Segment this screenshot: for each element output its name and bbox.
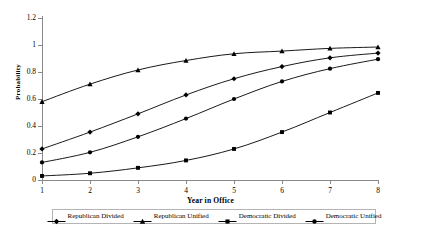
x-tick-label: 7 — [318, 186, 342, 195]
x-axis-title: Year in Office — [42, 196, 379, 205]
data-point — [88, 171, 92, 175]
data-point — [135, 111, 140, 116]
triangle-marker-icon — [133, 212, 152, 221]
legend-label: Democratic Divided — [239, 212, 296, 221]
x-tick-label: 3 — [126, 186, 150, 195]
legend-item-republican-unified[interactable]: Republican Unified — [133, 212, 209, 221]
y-axis-title: Probability — [14, 52, 22, 112]
data-point — [376, 57, 380, 61]
series-line — [42, 47, 378, 102]
diamond-marker-icon — [47, 212, 66, 221]
data-point — [376, 91, 380, 95]
data-point — [279, 48, 284, 53]
y-tick-mark — [38, 99, 43, 100]
series-line — [42, 93, 378, 176]
data-point — [327, 46, 332, 51]
series-democratic-divided — [40, 91, 380, 178]
x-tick-mark — [282, 180, 283, 184]
legend-item-democratic-divided[interactable]: Democratic Divided — [218, 212, 296, 221]
legend-label: Republican Divided — [68, 212, 124, 221]
square-marker-icon — [218, 212, 237, 221]
data-point — [232, 147, 236, 151]
chart-legend: Republican DividedRepublican UnifiedDemo… — [52, 209, 376, 224]
x-tick-label: 6 — [270, 186, 294, 195]
chart-figure: 00.20.40.60.811.2 12345678 Probability Y… — [0, 0, 428, 235]
data-point — [375, 44, 380, 49]
data-point — [231, 76, 236, 81]
data-point — [184, 116, 188, 120]
y-tick-label: 0.4 — [6, 122, 36, 130]
x-tick-label: 5 — [222, 186, 246, 195]
y-tick-label: 0 — [6, 176, 36, 184]
data-point — [135, 67, 140, 72]
x-tick-mark — [138, 180, 139, 184]
x-tick-mark — [234, 180, 235, 184]
x-tick-label: 2 — [78, 186, 102, 195]
x-tick-mark — [42, 180, 43, 184]
data-point — [231, 51, 236, 56]
series-line — [42, 59, 378, 162]
series-democratic-unified — [40, 57, 380, 164]
data-point — [183, 58, 188, 63]
x-tick-mark — [186, 180, 187, 184]
series-republican-divided — [39, 51, 380, 152]
data-point — [88, 150, 92, 154]
legend-label: Democratic Unified — [326, 212, 382, 221]
y-tick-mark — [38, 72, 43, 73]
data-point — [280, 130, 284, 134]
x-tick-label: 4 — [174, 186, 198, 195]
y-tick-mark — [38, 153, 43, 154]
data-point — [184, 158, 188, 162]
circle-marker-icon — [305, 212, 324, 221]
series-line — [42, 53, 378, 149]
series-republican-unified — [39, 44, 380, 103]
x-tick-label: 8 — [366, 186, 390, 195]
data-point — [328, 67, 332, 71]
data-point — [87, 129, 92, 134]
y-tick-mark — [38, 18, 43, 19]
x-axis-line — [42, 180, 379, 181]
y-tick-mark — [38, 126, 43, 127]
data-point — [327, 55, 332, 60]
data-point — [328, 111, 332, 115]
data-point — [136, 135, 140, 139]
y-tick-mark — [38, 45, 43, 46]
data-point — [279, 64, 284, 69]
data-point — [232, 97, 236, 101]
legend-item-republican-divided[interactable]: Republican Divided — [47, 212, 124, 221]
data-point — [136, 166, 140, 170]
x-tick-mark — [378, 180, 379, 184]
y-tick-label: 1.2 — [6, 14, 36, 22]
legend-item-democratic-unified[interactable]: Democratic Unified — [305, 212, 382, 221]
x-tick-label: 1 — [30, 186, 54, 195]
data-point — [375, 51, 380, 56]
y-tick-label: 1 — [6, 41, 36, 49]
data-point — [87, 82, 92, 87]
data-point — [280, 79, 284, 83]
legend-label: Republican Unified — [154, 212, 209, 221]
data-point — [183, 92, 188, 97]
x-tick-mark — [330, 180, 331, 184]
y-tick-label: 0.2 — [6, 149, 36, 157]
x-tick-mark — [90, 180, 91, 184]
